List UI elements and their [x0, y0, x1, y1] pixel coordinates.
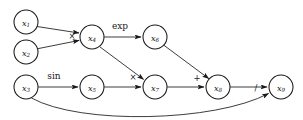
edge-x4-to-x7 [100, 47, 144, 80]
computational-graph-diagram: × exp sin × + / x1 x2 x3 [0, 0, 303, 120]
node-x1[interactable]: x1 [14, 10, 38, 34]
edge-label-sin: sin [47, 71, 60, 81]
node-x3[interactable]: x3 [14, 75, 38, 99]
edge-label-exp: exp [112, 21, 128, 31]
node-x5[interactable]: x5 [80, 75, 104, 99]
edge-x6-to-x8 [164, 45, 209, 78]
edge-label-multiply-x7: × [129, 72, 136, 82]
node-x7-subscript: 7 [156, 87, 160, 93]
node-x2-subscript: 2 [26, 52, 31, 58]
node-x8[interactable]: x8 [206, 75, 230, 99]
node-x4[interactable]: x4 [80, 25, 104, 49]
node-x4-subscript: 4 [92, 37, 97, 43]
node-x9[interactable]: x9 [269, 75, 293, 99]
node-x9-subscript: 9 [282, 87, 286, 93]
node-x6[interactable]: x6 [143, 25, 167, 49]
edge-x2-to-x4 [37, 40, 79, 48]
node-x7[interactable]: x7 [143, 75, 167, 99]
edge-label-multiply-x4: × [68, 31, 75, 41]
edge-label-divide-x9: / [255, 83, 258, 93]
node-x2[interactable]: x2 [14, 40, 38, 64]
node-x3-subscript: 3 [27, 87, 31, 93]
node-x5-subscript: 5 [93, 87, 97, 93]
nodes-layer: x1 x2 x3 x4 x5 [14, 10, 293, 99]
node-x8-subscript: 8 [219, 87, 223, 93]
node-x1-subscript: 1 [27, 22, 31, 28]
node-x6-subscript: 6 [156, 37, 160, 43]
edge-label-plus-x8: + [193, 73, 200, 83]
